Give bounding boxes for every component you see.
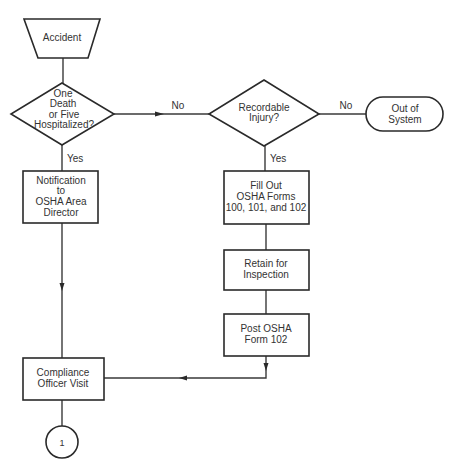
svg-text:Retain for: Retain for <box>244 258 288 269</box>
svg-text:Form 102: Form 102 <box>245 334 288 345</box>
svg-text:OSHA Forms: OSHA Forms <box>237 191 296 202</box>
arrow-down-icon <box>264 363 269 371</box>
svg-text:1: 1 <box>59 438 64 448</box>
svg-text:Hospitalized?: Hospitalized? <box>34 119 94 130</box>
svg-text:Injury?: Injury? <box>249 112 279 123</box>
svg-text:Death: Death <box>50 98 77 109</box>
svg-text:Out of: Out of <box>391 103 418 114</box>
svg-text:100, 101, and 102: 100, 101, and 102 <box>226 202 307 213</box>
node-notification: Notification to OSHA Area Director <box>23 171 98 223</box>
svg-text:Compliance: Compliance <box>37 367 90 378</box>
edge-label-yes-2: Yes <box>270 153 286 164</box>
node-connector-1: 1 <box>46 426 78 458</box>
node-out-of-system: Out of System <box>366 97 443 131</box>
node-fill-out-forms: Fill Out OSHA Forms 100, 101, and 102 <box>224 171 309 224</box>
node-death-check: One Death or Five Hospitalized? <box>11 83 114 145</box>
edge-label-yes-1: Yes <box>67 153 83 164</box>
node-accident: Accident <box>24 19 100 58</box>
node-post-osha-form: Post OSHA Form 102 <box>224 314 309 356</box>
arrow-left-icon <box>179 376 187 381</box>
svg-text:OSHA Area: OSHA Area <box>35 196 87 207</box>
edge-post-to-compliance <box>104 356 266 378</box>
flowchart: No Yes No Yes Accident One Death or Five… <box>0 0 458 474</box>
svg-text:Inspection: Inspection <box>243 269 289 280</box>
arrow-right-icon <box>155 112 164 117</box>
node-retain-for-inspection: Retain for Inspection <box>224 250 309 290</box>
edge-label-no-1: No <box>172 100 185 111</box>
svg-text:Fill Out: Fill Out <box>250 180 282 191</box>
svg-text:System: System <box>388 114 421 125</box>
svg-text:Post OSHA: Post OSHA <box>240 323 291 334</box>
svg-text:Officer Visit: Officer Visit <box>38 378 89 389</box>
node-compliance-officer-visit: Compliance Officer Visit <box>23 358 104 400</box>
edge-label-no-2: No <box>340 100 353 111</box>
svg-text:to: to <box>57 185 66 196</box>
svg-text:Accident: Accident <box>43 32 82 43</box>
node-recordable: Recordable Injury? <box>209 80 319 146</box>
svg-text:Director: Director <box>43 207 79 218</box>
arrow-down-icon <box>60 283 65 291</box>
